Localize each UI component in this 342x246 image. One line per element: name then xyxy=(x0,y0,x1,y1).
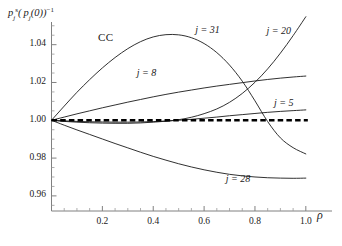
plot-canvas xyxy=(0,0,342,246)
curve-j20 xyxy=(52,17,306,124)
curve-j8 xyxy=(52,76,306,120)
axis-ticks xyxy=(52,26,306,211)
curve-j31 xyxy=(52,34,306,153)
chart-figure: pjs( pj(0))−1 ρ CC 0.96 0.98 1.00 1.02 1… xyxy=(0,0,342,246)
curve-j28 xyxy=(52,120,306,178)
axis-lines xyxy=(52,22,333,211)
data-curves xyxy=(52,17,306,179)
